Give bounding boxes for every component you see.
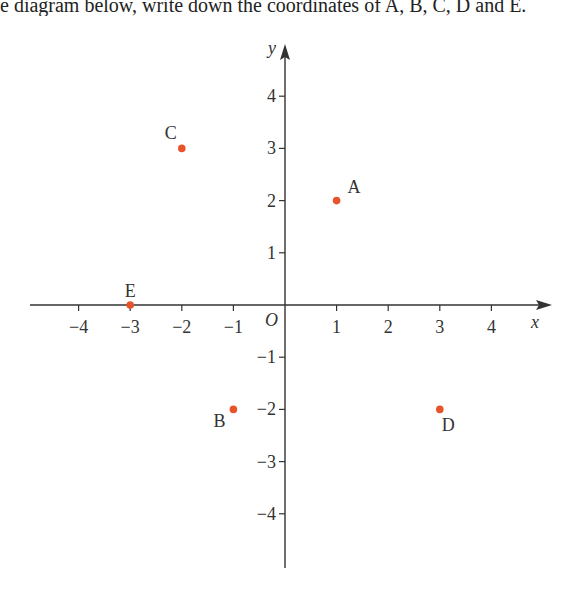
point-label: C [165, 123, 177, 143]
point-marker [178, 145, 186, 153]
axes: xyO [30, 38, 552, 568]
y-tick-label: 1 [267, 243, 276, 263]
point-label: E [125, 281, 136, 301]
x-tick-label: −4 [69, 317, 88, 337]
point-marker [230, 406, 238, 414]
x-tick-label: −2 [172, 317, 191, 337]
point-marker [333, 197, 341, 205]
point-label: D [442, 415, 455, 435]
x-tick-label: −3 [121, 317, 140, 337]
point-label: A [348, 177, 361, 197]
y-tick-label: −3 [257, 452, 276, 472]
x-tick-label: 1 [332, 317, 341, 337]
x-tick-label: −1 [224, 317, 243, 337]
x-axis-ticks: −4−3−2−11234 [69, 305, 496, 337]
origin-label: O [265, 310, 278, 330]
x-tick-label: 3 [435, 317, 444, 337]
y-tick-label: 4 [267, 86, 276, 106]
y-tick-label: −2 [257, 399, 276, 419]
x-tick-label: 4 [487, 317, 496, 337]
point-marker [126, 301, 134, 309]
point-b: B [213, 406, 237, 432]
point-marker [436, 406, 444, 414]
y-axis-label: y [266, 38, 276, 58]
point-a: A [333, 177, 361, 205]
x-tick-label: 2 [384, 317, 393, 337]
y-tick-label: 3 [267, 138, 276, 158]
point-c: C [165, 123, 186, 152]
data-points: ABCDE [125, 123, 455, 435]
point-label: B [213, 411, 225, 431]
x-axis-label: x [530, 312, 539, 332]
point-d: D [436, 406, 455, 436]
coordinate-plane: xyO −4−3−2−11234 4321−1−2−3−4 ABCDE [0, 0, 562, 596]
y-tick-label: −4 [257, 504, 276, 524]
y-tick-label: 2 [267, 191, 276, 211]
y-tick-label: −1 [257, 347, 276, 367]
